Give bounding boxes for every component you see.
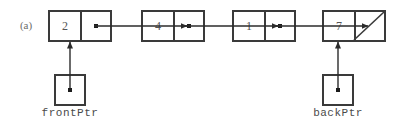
- linked-list-figure: (a) 2 4 1 7 frontPtr backPtr: [0, 0, 399, 125]
- connector-layer: [0, 0, 399, 125]
